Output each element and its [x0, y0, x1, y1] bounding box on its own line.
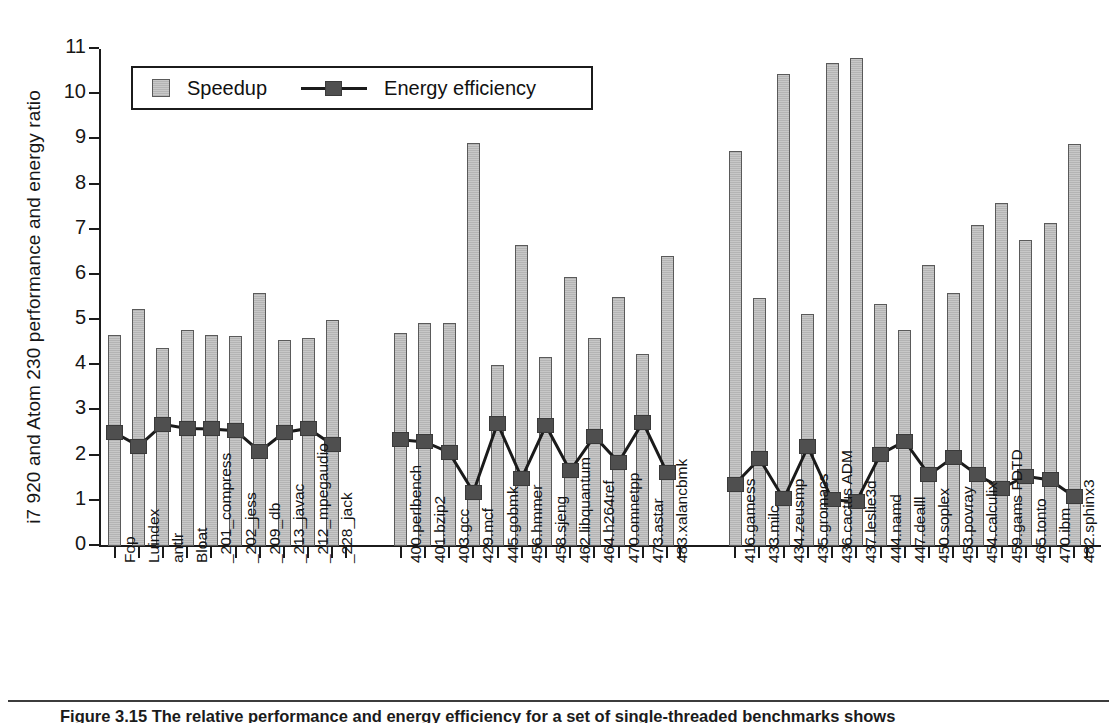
x-label-10: 400.perlbench	[407, 465, 425, 563]
x-label-22: 416.gamess	[741, 479, 759, 563]
x-label-17: 462.libquantum	[576, 457, 594, 563]
x-label-6: _209_db	[266, 503, 284, 563]
x-label-20: 473.astar	[649, 498, 667, 563]
x-label-33: 459.gams FDTD	[1008, 449, 1026, 563]
x-label-19: 470.omnetpp	[625, 473, 643, 564]
x-label-30: 450.soplex	[935, 488, 953, 563]
legend-label-speedup: Speedup	[187, 77, 267, 100]
legend-swatch-energy-efficiency	[301, 79, 367, 97]
x-label-23: 433.milc	[765, 505, 783, 563]
legend-label-energy-efficiency: Energy efficiency	[384, 77, 536, 100]
legend-marker-square	[325, 81, 342, 96]
x-label-31: 453.povray	[959, 486, 977, 563]
x-label-8: _212_mpegaudio	[314, 443, 332, 563]
x-label-27: 437.leslie3d	[862, 480, 880, 563]
x-label-25: 435.gromacs	[814, 473, 832, 563]
x-label-4: _201_compress	[217, 453, 235, 563]
figure-container: i7 920 and Atom 230 performance and ener…	[0, 0, 1118, 723]
x-label-12: 403.gcc	[455, 509, 473, 563]
figure-caption: Figure 3.15 The relative performance and…	[60, 707, 1110, 723]
x-label-13: 429.mcf	[479, 508, 497, 563]
x-label-24: 434.zeusmp	[790, 479, 808, 563]
x-label-2: antlr	[169, 533, 187, 563]
x-label-36: 482.sphinx3	[1080, 479, 1098, 563]
legend-swatch-speedup	[152, 79, 170, 97]
chart-legend: Speedup Energy efficiency	[131, 66, 593, 110]
x-label-26: 436.cactus ADM	[838, 450, 856, 563]
x-label-28: 444.namd	[887, 494, 905, 563]
x-label-16: 458.sjeng	[552, 496, 570, 563]
x-label-21: 483.xalancbmk	[673, 459, 691, 563]
x-label-1: Luindex	[145, 509, 163, 563]
x-label-15: 456.hmmer	[528, 485, 546, 563]
x-label-9: _228_jack	[338, 492, 356, 563]
x-label-29: 447.dealll	[911, 497, 929, 563]
x-label-5: _202_jess	[242, 492, 260, 563]
x-label-18: 464.h264ref	[600, 480, 618, 563]
x-label-32: 454.calculix	[983, 482, 1001, 563]
x-label-0: Fop	[121, 536, 139, 563]
x-label-11: 401.bzip2	[431, 496, 449, 563]
x-label-14: 445.gobmk	[504, 486, 522, 563]
x-label-3: Bloat	[193, 528, 211, 563]
x-label-34: 465.tonto	[1032, 498, 1050, 563]
caption-divider	[8, 700, 1109, 702]
x-label-7: _213_javac	[290, 484, 308, 563]
x-label-35: 470.ibm	[1056, 508, 1074, 563]
